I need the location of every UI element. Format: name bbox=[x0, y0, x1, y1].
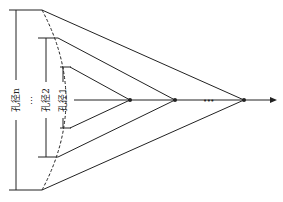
focal-point-1 bbox=[128, 98, 132, 102]
aperture-1-rays bbox=[70, 67, 130, 128]
focal-point-2 bbox=[173, 98, 177, 102]
aperture-focus-diagram: ••• 孔径n 孔径2 孔径1 ⋮ bbox=[0, 0, 283, 202]
vertical-ellipsis: ⋮ bbox=[27, 96, 36, 106]
aperture-n-label: 孔径n bbox=[10, 88, 21, 112]
focal-point-n bbox=[242, 98, 246, 102]
aperture-2-label: 孔径2 bbox=[40, 88, 51, 112]
axis-ellipsis: ••• bbox=[203, 97, 214, 105]
arrow-head-icon bbox=[270, 97, 277, 103]
aperture-1-label: 孔径1 bbox=[57, 88, 68, 112]
aperture-2-rays bbox=[58, 38, 175, 157]
